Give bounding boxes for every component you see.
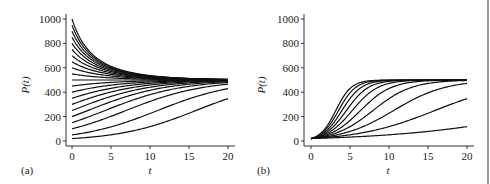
x-axis-label: t bbox=[386, 164, 390, 176]
y-axis-label: P(t) bbox=[19, 76, 32, 94]
y-tick-label: 200 bbox=[45, 111, 62, 123]
x-tick-label: 0 bbox=[69, 150, 75, 162]
y-tick-label: 1000 bbox=[39, 13, 62, 25]
y-tick-label: 600 bbox=[283, 62, 300, 74]
curve-p0-900 bbox=[72, 31, 228, 79]
y-tick-label: 1000 bbox=[277, 13, 300, 25]
panel-label: (b) bbox=[257, 164, 270, 177]
x-tick-label: 5 bbox=[108, 150, 114, 162]
x-tick-label: 10 bbox=[145, 150, 157, 162]
x-tick-label: 5 bbox=[347, 150, 353, 162]
x-tick-label: 15 bbox=[423, 150, 435, 162]
y-axis-label: P(t) bbox=[255, 76, 268, 94]
curve-r-0_3 bbox=[311, 83, 467, 138]
x-tick-label: 15 bbox=[184, 150, 196, 162]
panel-label: (a) bbox=[21, 164, 34, 177]
y-tick-label: 0 bbox=[294, 135, 300, 147]
x-axis-label: t bbox=[148, 164, 152, 176]
figure: 0200400600800100005101520tP(t)(a) 020040… bbox=[0, 0, 490, 184]
y-tick-label: 200 bbox=[283, 111, 300, 123]
curve-p0-50 bbox=[72, 89, 228, 135]
panel-a: 0200400600800100005101520tP(t)(a) bbox=[19, 13, 235, 177]
curve-p0-1000 bbox=[72, 19, 228, 79]
y-tick-label: 600 bbox=[45, 62, 62, 74]
curve-p0-20 bbox=[72, 99, 228, 139]
x-tick-label: 20 bbox=[462, 150, 474, 162]
y-tick-label: 800 bbox=[45, 37, 62, 49]
panel-b: 0200400600800100005101520tP(t)(b) bbox=[255, 13, 474, 177]
y-tick-label: 0 bbox=[56, 135, 62, 147]
y-tick-label: 400 bbox=[45, 86, 62, 98]
x-tick-label: 0 bbox=[308, 150, 314, 162]
y-tick-label: 400 bbox=[283, 86, 300, 98]
x-tick-label: 20 bbox=[223, 150, 235, 162]
y-tick-label: 800 bbox=[283, 37, 300, 49]
x-tick-label: 10 bbox=[384, 150, 396, 162]
curve-p0-150 bbox=[72, 83, 228, 123]
